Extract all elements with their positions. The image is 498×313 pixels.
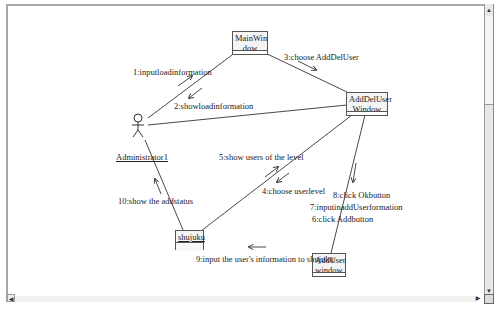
message-8: 8:click Okbutton: [333, 190, 390, 200]
message-3: 3:choose AddDelUser: [284, 52, 359, 62]
object-mainwindow[interactable]: MainWin dow: [232, 31, 268, 55]
message-9: 9:input the user's information to shujuk…: [196, 254, 334, 264]
message-10: 10:show the addstatus: [118, 196, 193, 206]
scroll-up-button[interactable]: ▲: [485, 6, 493, 14]
scroll-right-button[interactable]: ▶: [474, 294, 482, 302]
message-2: 2:showloadinformation: [174, 101, 253, 111]
vertical-scroll-thumb[interactable]: [485, 16, 493, 105]
message-6: 6:click Addbutton: [312, 214, 373, 224]
horizontal-scrollbar[interactable]: [16, 296, 478, 302]
vertical-scrollbar[interactable]: ▲ ▼: [484, 4, 494, 304]
message-1: 1:inputloadinformation: [133, 67, 212, 77]
object-divider: [233, 50, 267, 54]
resize-grip-icon[interactable]: [484, 294, 494, 304]
object-divider: [347, 111, 387, 115]
actor-label: Administrator1: [116, 152, 168, 162]
actor-icon: [132, 114, 144, 137]
object-divider: [176, 242, 203, 251]
message-4: 4:choose userlevel: [262, 186, 325, 196]
object-shujuku-line1: shujuku: [176, 231, 203, 242]
object-adddeluser-line1: AddDelUser: [347, 93, 387, 104]
object-shujuku[interactable]: shujuku: [175, 230, 204, 250]
object-mainwindow-line1: MainWin: [233, 32, 267, 43]
message-5: 5:show users of the level: [219, 152, 304, 162]
object-adddeluser-window[interactable]: AddDelUser Window: [346, 92, 388, 116]
object-divider: [313, 272, 345, 276]
scroll-left-button[interactable]: ◀: [7, 294, 15, 302]
message-7: 7:inputinaddUserformation: [310, 202, 403, 212]
